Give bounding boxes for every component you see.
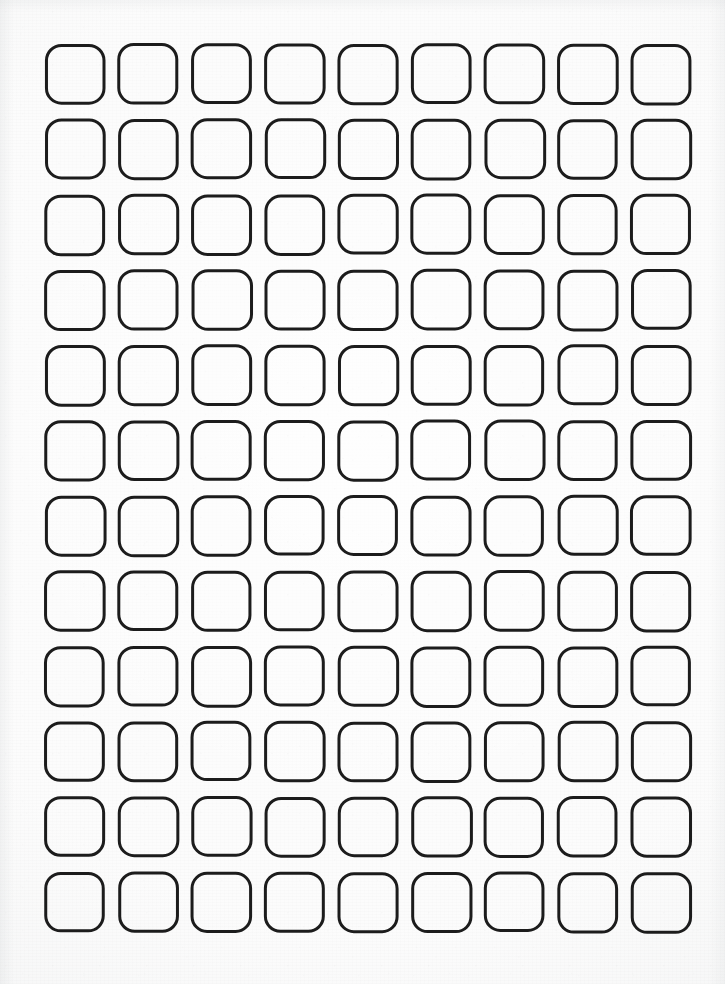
- grid-cell[interactable]: [46, 497, 105, 555]
- grid-cell[interactable]: [559, 648, 617, 707]
- grid-cell[interactable]: [266, 271, 324, 329]
- grid-cell[interactable]: [46, 422, 104, 480]
- grid-cell[interactable]: [632, 120, 691, 179]
- grid-cell[interactable]: [632, 573, 690, 632]
- grid-cell[interactable]: [559, 496, 617, 554]
- grid-cell[interactable]: [559, 572, 617, 630]
- grid-cell[interactable]: [46, 45, 104, 103]
- grid-cell[interactable]: [266, 120, 324, 178]
- grid-cell[interactable]: [265, 572, 323, 629]
- grid-cell[interactable]: [193, 271, 251, 330]
- grid-cell[interactable]: [339, 723, 397, 781]
- grid-cell[interactable]: [46, 723, 104, 780]
- grid-cell[interactable]: [46, 271, 104, 329]
- grid-cell[interactable]: [266, 196, 324, 254]
- grid-cell[interactable]: [558, 798, 616, 856]
- grid-cell[interactable]: [339, 422, 397, 480]
- grid-cell[interactable]: [266, 45, 325, 103]
- grid-cell[interactable]: [119, 647, 177, 705]
- grid-cell[interactable]: [119, 723, 177, 781]
- grid-cell[interactable]: [46, 572, 105, 630]
- grid-cell[interactable]: [632, 45, 690, 104]
- grid-cell[interactable]: [413, 798, 472, 856]
- grid-cell[interactable]: [559, 271, 617, 330]
- grid-cell[interactable]: [193, 346, 251, 405]
- grid-cell[interactable]: [46, 873, 104, 930]
- grid-cell[interactable]: [486, 421, 544, 479]
- grid-cell[interactable]: [412, 421, 470, 479]
- grid-cell[interactable]: [266, 799, 324, 857]
- grid-cell[interactable]: [119, 497, 178, 556]
- grid-cell[interactable]: [119, 347, 177, 405]
- grid-cell[interactable]: [559, 874, 617, 932]
- grid-cell[interactable]: [412, 723, 470, 782]
- grid-cell[interactable]: [632, 346, 690, 404]
- grid-cell[interactable]: [559, 422, 616, 480]
- grid-cell[interactable]: [119, 271, 177, 329]
- grid-cell[interactable]: [266, 346, 324, 405]
- grid-cell[interactable]: [265, 647, 323, 705]
- grid-cell[interactable]: [339, 195, 397, 253]
- grid-cell[interactable]: [192, 873, 251, 931]
- grid-cell[interactable]: [485, 45, 544, 103]
- grid-cell[interactable]: [192, 497, 250, 555]
- grid-cell[interactable]: [339, 271, 397, 329]
- grid-cell[interactable]: [412, 270, 470, 329]
- grid-cell[interactable]: [339, 874, 397, 932]
- grid-cell[interactable]: [413, 873, 471, 931]
- grid-cell[interactable]: [485, 196, 543, 254]
- grid-cell[interactable]: [633, 271, 691, 329]
- grid-cell[interactable]: [45, 648, 103, 706]
- grid-cell[interactable]: [412, 497, 470, 555]
- grid-cell[interactable]: [119, 798, 178, 856]
- grid-cell[interactable]: [339, 120, 397, 178]
- grid-cell[interactable]: [632, 798, 691, 856]
- grid-cell[interactable]: [193, 45, 251, 103]
- grid-cell[interactable]: [632, 647, 689, 704]
- grid-cell[interactable]: [339, 45, 397, 103]
- grid-cell[interactable]: [119, 45, 177, 104]
- grid-cell[interactable]: [47, 120, 105, 178]
- grid-cell[interactable]: [46, 347, 104, 406]
- grid-cell[interactable]: [485, 798, 542, 856]
- grid-cell[interactable]: [339, 647, 397, 705]
- grid-cell[interactable]: [119, 572, 177, 629]
- grid-cell[interactable]: [192, 722, 250, 779]
- grid-cell[interactable]: [412, 120, 470, 179]
- grid-cell[interactable]: [485, 873, 543, 930]
- grid-cell[interactable]: [559, 722, 617, 780]
- grid-cell[interactable]: [485, 647, 543, 705]
- grid-cell[interactable]: [412, 648, 470, 707]
- grid-cell[interactable]: [631, 497, 690, 554]
- grid-cell[interactable]: [632, 874, 690, 933]
- grid-cell[interactable]: [412, 45, 470, 103]
- grid-cell[interactable]: [559, 195, 616, 253]
- grid-cell[interactable]: [193, 572, 250, 630]
- grid-cell[interactable]: [632, 723, 690, 781]
- grid-cell[interactable]: [120, 120, 178, 178]
- grid-cell[interactable]: [192, 120, 250, 178]
- grid-cell[interactable]: [559, 121, 616, 178]
- grid-cell[interactable]: [632, 422, 691, 480]
- grid-cell[interactable]: [559, 45, 618, 103]
- grid-cell[interactable]: [266, 722, 325, 780]
- grid-cell[interactable]: [559, 346, 617, 404]
- grid-cell[interactable]: [485, 572, 543, 631]
- grid-cell[interactable]: [193, 196, 251, 255]
- grid-cell[interactable]: [120, 873, 178, 931]
- grid-cell[interactable]: [265, 873, 323, 931]
- grid-cell[interactable]: [339, 572, 397, 631]
- grid-cell[interactable]: [485, 723, 543, 781]
- grid-cell[interactable]: [412, 347, 470, 405]
- grid-cell[interactable]: [120, 195, 178, 253]
- grid-cell[interactable]: [192, 422, 250, 480]
- grid-cell[interactable]: [339, 497, 397, 555]
- grid-cell[interactable]: [339, 347, 397, 405]
- grid-cell[interactable]: [119, 422, 178, 480]
- grid-cell[interactable]: [485, 271, 543, 329]
- grid-cell[interactable]: [412, 195, 470, 253]
- grid-cell[interactable]: [485, 497, 542, 555]
- grid-cell[interactable]: [412, 572, 470, 630]
- grid-cell[interactable]: [486, 120, 545, 177]
- grid-cell[interactable]: [485, 347, 542, 405]
